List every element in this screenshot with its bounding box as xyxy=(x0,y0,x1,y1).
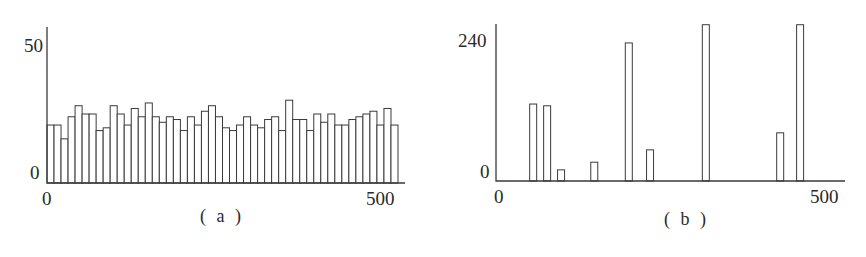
y-tick-max-b: 240 xyxy=(458,31,487,50)
histogram-bar xyxy=(103,128,110,183)
histogram-bar xyxy=(625,43,632,181)
x-tick-max-b: 500 xyxy=(810,187,839,206)
histogram-bar xyxy=(321,122,328,183)
histogram-bar xyxy=(702,25,709,181)
caption-b: ( b ) xyxy=(664,210,709,228)
histogram-a-plot xyxy=(0,0,430,200)
histogram-bar xyxy=(342,125,349,183)
histogram-bar xyxy=(61,139,68,183)
histogram-bar xyxy=(194,125,201,183)
histogram-bar xyxy=(272,117,279,183)
histogram-bar xyxy=(356,117,363,183)
histogram-bar xyxy=(201,111,208,183)
histogram-bar xyxy=(544,106,551,181)
histogram-bar xyxy=(180,131,187,183)
x-tick-zero-b: 0 xyxy=(494,187,504,206)
y-tick-zero-b: 0 xyxy=(480,162,490,181)
histogram-bar xyxy=(293,120,300,183)
histogram-bar xyxy=(54,125,61,183)
histogram-bar xyxy=(363,114,370,183)
caption-a: ( a ) xyxy=(200,207,244,225)
histogram-bar xyxy=(230,131,237,183)
histogram-bar xyxy=(75,106,82,183)
x-tick-max-a: 500 xyxy=(366,189,395,208)
x-tick-zero-a: 0 xyxy=(42,189,52,208)
histogram-bar xyxy=(384,108,391,183)
histogram-bar xyxy=(335,125,342,183)
histogram-bar xyxy=(117,114,124,183)
histogram-bar xyxy=(647,150,654,181)
histogram-bar xyxy=(377,125,384,183)
histogram-bar xyxy=(208,106,215,183)
histogram-bar xyxy=(300,120,307,183)
y-tick-max-a: 50 xyxy=(24,36,43,55)
histogram-bar xyxy=(166,117,173,183)
histogram-bar xyxy=(159,122,166,183)
histogram-bar xyxy=(591,162,598,181)
histogram-bar xyxy=(187,117,194,183)
histogram-bar xyxy=(370,111,377,183)
histogram-bar xyxy=(89,114,96,183)
histogram-bar xyxy=(251,125,258,183)
histogram-bar xyxy=(314,114,321,183)
histogram-b-plot xyxy=(430,0,866,200)
histogram-bar xyxy=(152,117,159,183)
histogram-bar xyxy=(558,170,565,181)
histogram-bar xyxy=(286,100,293,183)
histogram-bar xyxy=(215,117,222,183)
histogram-bar xyxy=(777,133,784,181)
histogram-bar xyxy=(307,131,314,183)
histogram-bar xyxy=(244,117,251,183)
histogram-bar xyxy=(47,125,54,183)
histogram-bar xyxy=(797,25,804,181)
y-tick-zero-a: 0 xyxy=(30,163,40,182)
histogram-bar xyxy=(82,114,89,183)
histogram-bar xyxy=(145,103,152,183)
histogram-bar xyxy=(124,125,131,183)
histogram-bar xyxy=(131,108,138,183)
histogram-bar xyxy=(258,128,265,183)
histogram-bar xyxy=(530,104,537,181)
histogram-bar xyxy=(349,120,356,183)
histogram-bar xyxy=(110,106,117,183)
histogram-bar xyxy=(279,131,286,183)
histogram-bar xyxy=(138,117,145,183)
histogram-bar xyxy=(173,120,180,183)
histogram-bar xyxy=(68,117,75,183)
histogram-a: 50 0 0 500 ( a ) xyxy=(0,0,430,257)
histogram-b: 240 0 0 500 ( b ) xyxy=(430,0,866,257)
histogram-bar xyxy=(265,120,272,183)
histogram-bar xyxy=(328,114,335,183)
histogram-bar xyxy=(391,125,398,183)
histogram-bar xyxy=(223,128,230,183)
histogram-bar xyxy=(96,131,103,183)
histogram-bar xyxy=(237,125,244,183)
